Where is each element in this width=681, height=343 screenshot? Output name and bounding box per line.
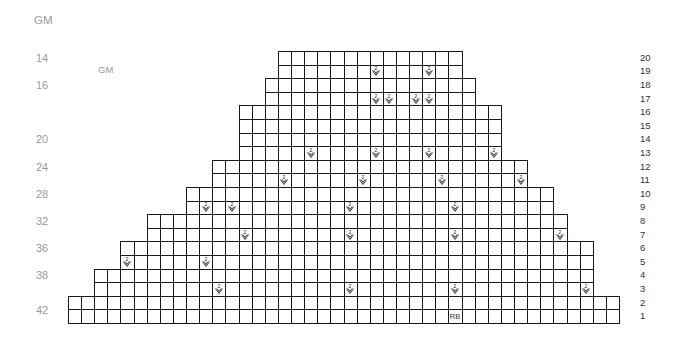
chart-cell [396, 173, 410, 188]
chart-cell [553, 214, 567, 229]
chart-cell [383, 78, 397, 93]
chart-cell [120, 255, 134, 270]
chart-cell [370, 119, 384, 134]
chart-cell [488, 241, 502, 256]
chart-cell [580, 255, 594, 270]
chart-cell [225, 228, 239, 243]
chart-cell [304, 92, 318, 107]
chart-cell [501, 282, 515, 297]
chart-cell [488, 173, 502, 188]
chart-cell [540, 201, 554, 216]
chart-cell [278, 92, 292, 107]
chart-cell [212, 309, 226, 324]
chart-cell [291, 146, 305, 161]
chart-cell [422, 51, 436, 66]
chart-cell [370, 133, 384, 148]
chart-cell [370, 92, 384, 107]
chart-cell [278, 78, 292, 93]
chart-cell [409, 105, 423, 120]
chart-cell [225, 173, 239, 188]
chart-cell [383, 146, 397, 161]
chart-cell [120, 296, 134, 311]
chart-cell [186, 187, 200, 202]
chart-cell [173, 296, 187, 311]
chart-cell [580, 296, 594, 311]
chart-cell [448, 160, 462, 175]
chart-cell [81, 296, 95, 311]
chart-cell [435, 65, 449, 80]
chart-cell [448, 51, 462, 66]
chart-cell [147, 214, 161, 229]
chart-cell [488, 133, 502, 148]
chart-cell [199, 282, 213, 297]
chart-cell [265, 105, 279, 120]
chart-cell [265, 92, 279, 107]
chart-cell [370, 282, 384, 297]
chart-cell [173, 309, 187, 324]
chart-cell [344, 214, 358, 229]
chart-cell [160, 241, 174, 256]
chart-cell [265, 255, 279, 270]
chart-cell [396, 160, 410, 175]
chart-cell [186, 241, 200, 256]
chart-cell [304, 105, 318, 120]
chart-cell [252, 146, 266, 161]
chart-cell [147, 241, 161, 256]
chart-cell [344, 51, 358, 66]
chart-cell [357, 146, 371, 161]
chart-cell [330, 309, 344, 324]
chart-cell [344, 187, 358, 202]
chart-cell [488, 119, 502, 134]
chart-cell [199, 228, 213, 243]
chart-cell [396, 241, 410, 256]
chart-cell [422, 269, 436, 284]
chart-cell [252, 296, 266, 311]
chart-cell [252, 255, 266, 270]
chart-cell [68, 296, 82, 311]
chart-cell [396, 78, 410, 93]
chart-cell [239, 146, 253, 161]
chart-cell [212, 255, 226, 270]
chart-cell [357, 214, 371, 229]
chart-cell [396, 92, 410, 107]
chart-cell [160, 214, 174, 229]
chart-cell [330, 269, 344, 284]
chart-cell [396, 119, 410, 134]
chart-cell [357, 65, 371, 80]
chart-cell [409, 65, 423, 80]
chart-cell [278, 241, 292, 256]
chart-cell [448, 214, 462, 229]
chart-cell [409, 296, 423, 311]
chart-cell [567, 241, 581, 256]
chart-cell [212, 228, 226, 243]
chart-cell [567, 255, 581, 270]
chart-cell [514, 255, 528, 270]
chart-cell [304, 173, 318, 188]
chart-cell [344, 269, 358, 284]
chart-cell [330, 51, 344, 66]
chart-cell [383, 187, 397, 202]
chart-cell [409, 228, 423, 243]
chart-cell [435, 282, 449, 297]
chart-cell [304, 119, 318, 134]
chart-cell [160, 269, 174, 284]
chart-cell [225, 187, 239, 202]
chart-cell [409, 214, 423, 229]
chart-cell [435, 51, 449, 66]
chart-cell [409, 160, 423, 175]
chart-cell [409, 201, 423, 216]
chart-cell [291, 214, 305, 229]
chart-cell [567, 282, 581, 297]
chart-cell [134, 255, 148, 270]
chart-cell [278, 133, 292, 148]
chart-cell [462, 146, 476, 161]
chart-cell [107, 282, 121, 297]
chart-cell [317, 146, 331, 161]
chart-cell [120, 241, 134, 256]
chart-cell [514, 241, 528, 256]
chart-cell [527, 228, 541, 243]
chart-cell [94, 282, 108, 297]
chart-cell [383, 228, 397, 243]
chart-cell [160, 228, 174, 243]
chart-cell [199, 309, 213, 324]
